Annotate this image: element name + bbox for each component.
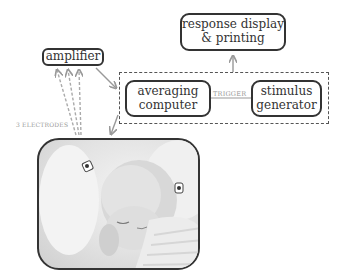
response-display-line1: response display	[182, 18, 284, 32]
amplifier-to-computer-arrow	[96, 68, 116, 88]
response-display-line2: & printing	[201, 32, 265, 46]
averaging-computer-line1: averaging	[138, 85, 199, 99]
electrodes-label: 3 ELECTRODES	[16, 121, 68, 128]
stimulus-generator-line1: stimulus	[261, 85, 313, 99]
response-display-node: response display & printing	[180, 13, 286, 51]
amplifier-node: amplifier	[42, 48, 104, 66]
stimulus-generator-line2: generator	[256, 99, 316, 113]
averaging-computer-node: averaging computer	[125, 80, 211, 117]
stimulus-to-baby-arrow	[111, 115, 118, 134]
stimulus-generator-node: stimulus generator	[251, 80, 322, 117]
baby-photo	[37, 138, 200, 270]
averaging-computer-line2: computer	[139, 99, 197, 113]
baby-illustration	[39, 140, 200, 270]
amplifier-label: amplifier	[46, 50, 101, 64]
trigger-label: TRIGGER	[213, 90, 246, 98]
